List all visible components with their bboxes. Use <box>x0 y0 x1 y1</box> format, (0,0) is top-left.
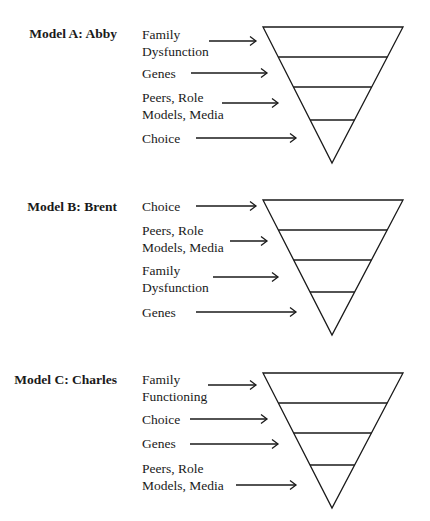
layer-label: Genes <box>142 304 176 321</box>
inverted-pyramid <box>263 200 403 335</box>
arrow-right-icon <box>222 99 278 108</box>
diagram-graphics <box>0 0 430 521</box>
arrow-right-icon <box>213 273 278 282</box>
layer-label: Genes <box>142 435 176 452</box>
layer-label-line1: Family <box>142 371 207 388</box>
layer-label: Peers, RoleModels, Media <box>142 222 224 256</box>
layer-label: FamilyDysfunction <box>142 26 209 60</box>
arrow-right-icon <box>191 69 267 78</box>
layer-label-line1: Peers, Role <box>142 222 224 239</box>
layer-label-line1: Choice <box>142 198 180 215</box>
arrow-right-icon <box>190 440 278 449</box>
layer-label: Genes <box>142 65 176 82</box>
layer-label-line2: Functioning <box>142 388 207 405</box>
layer-label: Choice <box>142 198 180 215</box>
model-title: Model A: Abby <box>29 27 117 41</box>
arrow-right-icon <box>208 381 256 390</box>
layer-label-line2: Dysfunction <box>142 279 209 296</box>
layer-label-line1: Peers, Role <box>142 460 224 477</box>
layer-label: Choice <box>142 130 180 147</box>
layer-label-line2: Models, Media <box>142 477 224 494</box>
arrow-right-icon <box>196 202 256 211</box>
layer-label-line2: Models, Media <box>142 106 224 123</box>
arrow-right-icon <box>196 134 296 143</box>
layer-label-line1: Choice <box>142 411 180 428</box>
layer-label: FamilyFunctioning <box>142 371 207 405</box>
arrow-right-icon <box>190 415 267 424</box>
arrow-right-icon <box>196 308 296 317</box>
layer-label: FamilyDysfunction <box>142 262 209 296</box>
layer-label-line1: Genes <box>142 65 176 82</box>
layer-label-line1: Peers, Role <box>142 89 224 106</box>
arrow-right-icon <box>209 37 256 46</box>
layer-label-line1: Genes <box>142 304 176 321</box>
layer-label-line1: Family <box>142 262 209 279</box>
arrow-right-icon <box>230 237 267 246</box>
model-title: Model B: Brent <box>27 200 117 214</box>
layer-label: Choice <box>142 411 180 428</box>
layer-label-line2: Dysfunction <box>142 43 209 60</box>
layer-label: Peers, RoleModels, Media <box>142 89 224 123</box>
layer-label-line2: Models, Media <box>142 239 224 256</box>
layer-label: Peers, RoleModels, Media <box>142 460 224 494</box>
layer-label-line1: Choice <box>142 130 180 147</box>
layer-label-line1: Family <box>142 26 209 43</box>
arrow-right-icon <box>236 481 296 490</box>
inverted-pyramid <box>263 27 403 163</box>
model-title: Model C: Charles <box>14 373 117 387</box>
layer-label-line1: Genes <box>142 435 176 452</box>
inverted-pyramid <box>263 373 403 508</box>
